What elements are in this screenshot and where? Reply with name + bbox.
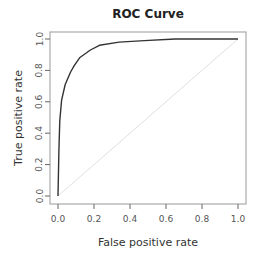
- y-axis-label: True positive rate: [12, 70, 25, 167]
- y-tick-label: 0.0: [35, 189, 45, 204]
- chart-title: ROC Curve: [112, 7, 184, 21]
- y-tick-label: 0.2: [35, 157, 45, 171]
- y-tick-label: 0.8: [35, 63, 45, 78]
- y-axis: 0.00.20.40.60.81.0: [35, 32, 51, 204]
- y-tick-label: 0.4: [35, 126, 45, 141]
- x-axis: 0.00.20.40.60.81.0: [51, 204, 246, 224]
- y-tick-label: 1.0: [35, 32, 45, 47]
- x-tick-label: 0.6: [159, 214, 174, 224]
- y-tick-label: 0.6: [35, 94, 45, 109]
- series-layer: [58, 39, 238, 196]
- x-tick-label: 0.8: [195, 214, 210, 224]
- x-tick-label: 0.0: [51, 214, 66, 224]
- x-tick-label: 1.0: [231, 214, 246, 224]
- x-tick-label: 0.4: [123, 214, 138, 224]
- x-tick-label: 0.2: [87, 214, 101, 224]
- chance-diagonal-line: [58, 39, 238, 196]
- x-axis-label: False positive rate: [98, 236, 198, 249]
- chart-canvas: ROC Curve 0.00.20.40.60.81.0 0.00.20.40.…: [0, 0, 258, 255]
- roc-chart: ROC Curve 0.00.20.40.60.81.0 0.00.20.40.…: [0, 0, 258, 255]
